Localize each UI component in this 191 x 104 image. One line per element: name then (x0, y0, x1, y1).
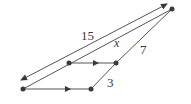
point-c (114, 61, 119, 66)
point-a (21, 87, 26, 92)
parallel-arrow-icon (65, 86, 71, 92)
point-d (89, 87, 94, 92)
label-x: x (113, 36, 120, 50)
point-e (170, 7, 175, 12)
parallel-arrow-icon (93, 60, 99, 66)
geometry-diagram: 15 x 7 3 (0, 0, 191, 104)
point-b (67, 61, 72, 66)
label-7: 7 (140, 42, 147, 57)
label-15: 15 (81, 28, 94, 43)
label-3: 3 (107, 75, 114, 90)
segment-a-e (23, 9, 172, 89)
